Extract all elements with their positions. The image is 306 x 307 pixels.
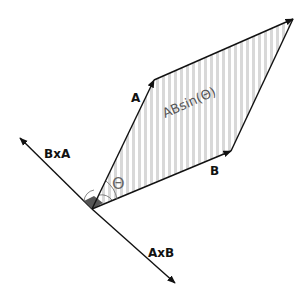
label-axb: AxB	[148, 246, 174, 260]
cross-product-diagram: A B BxA AxB Θ ABsin(Θ)	[0, 0, 306, 307]
label-theta: Θ	[112, 174, 125, 193]
label-a: A	[131, 91, 141, 105]
label-b: B	[210, 164, 219, 178]
label-bxa: BxA	[44, 147, 71, 161]
